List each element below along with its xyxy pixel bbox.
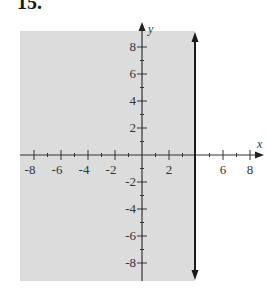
y-tick-label: 6 xyxy=(130,66,137,81)
x-axis-label: x xyxy=(256,137,263,151)
y-tick-label: 8 xyxy=(130,39,137,54)
inequality-graph: x y xyxy=(0,0,266,296)
x-tick-label: 8 xyxy=(247,162,254,177)
x-tick-label: -4 xyxy=(79,162,90,177)
y-axis-label: y xyxy=(147,22,154,36)
x-tick-label: -6 xyxy=(52,162,63,177)
y-tick-label: -4 xyxy=(125,201,136,216)
x-tick-label: 6 xyxy=(220,162,227,177)
x-axis-arrow-icon xyxy=(255,152,264,159)
x-tick-label: 2 xyxy=(166,162,173,177)
y-tick-label: -6 xyxy=(125,228,136,243)
y-tick-label: 4 xyxy=(130,93,137,108)
y-tick-label: 2 xyxy=(130,120,137,135)
y-tick-label: -2 xyxy=(125,174,136,189)
y-axis-arrow-icon xyxy=(139,22,146,31)
y-tick-label: -8 xyxy=(125,255,136,270)
x-tick-label: -8 xyxy=(25,162,36,177)
x-tick-label: -2 xyxy=(106,162,117,177)
